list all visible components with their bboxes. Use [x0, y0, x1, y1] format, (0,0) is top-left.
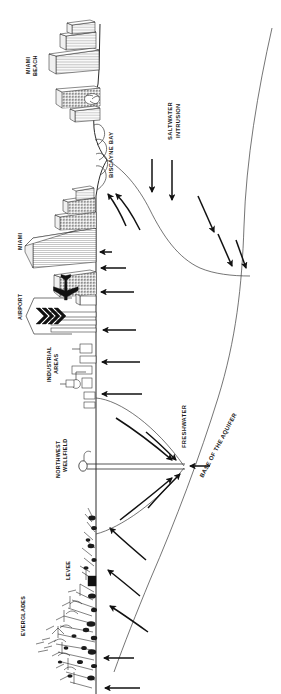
levee-icon: [88, 576, 96, 586]
shoreline-tree-icon: [85, 94, 100, 105]
airport-label: AIRPORT: [17, 293, 23, 320]
industrial-areas-label-line1: INDUSTRIAL: [46, 346, 52, 382]
northwest-wellfield-label-line2: WELLFIELD: [62, 438, 68, 472]
miami-beach-label-line1: MIAMI: [25, 56, 31, 74]
aquifer-cross-section-figure: BISCAYNE BAY: [0, 0, 281, 694]
saltwater-intrusion-label-line1: SALTWATER: [167, 102, 173, 140]
northwest-wellfield-label-line1: NORTHWEST: [55, 440, 61, 478]
saltwater-intrusion-label-line2: INTRUSION: [175, 103, 181, 138]
freshwater-label: FRESHWATER: [181, 404, 187, 448]
biscayne-bay-label: BISCAYNE BAY: [108, 132, 114, 178]
figure-background: [0, 0, 281, 694]
industrial-areas-label-line2: AREAS: [53, 354, 59, 374]
freshwater-group: FRESHWATER: [181, 404, 187, 448]
miami-beach-label-line2: BEACH: [32, 55, 38, 76]
miami-label: MIAMI: [17, 232, 23, 250]
figure-canvas: BISCAYNE BAY: [0, 0, 281, 694]
everglades-label: EVERGLADES: [20, 596, 26, 636]
levee-label: LEVEE: [65, 561, 71, 580]
